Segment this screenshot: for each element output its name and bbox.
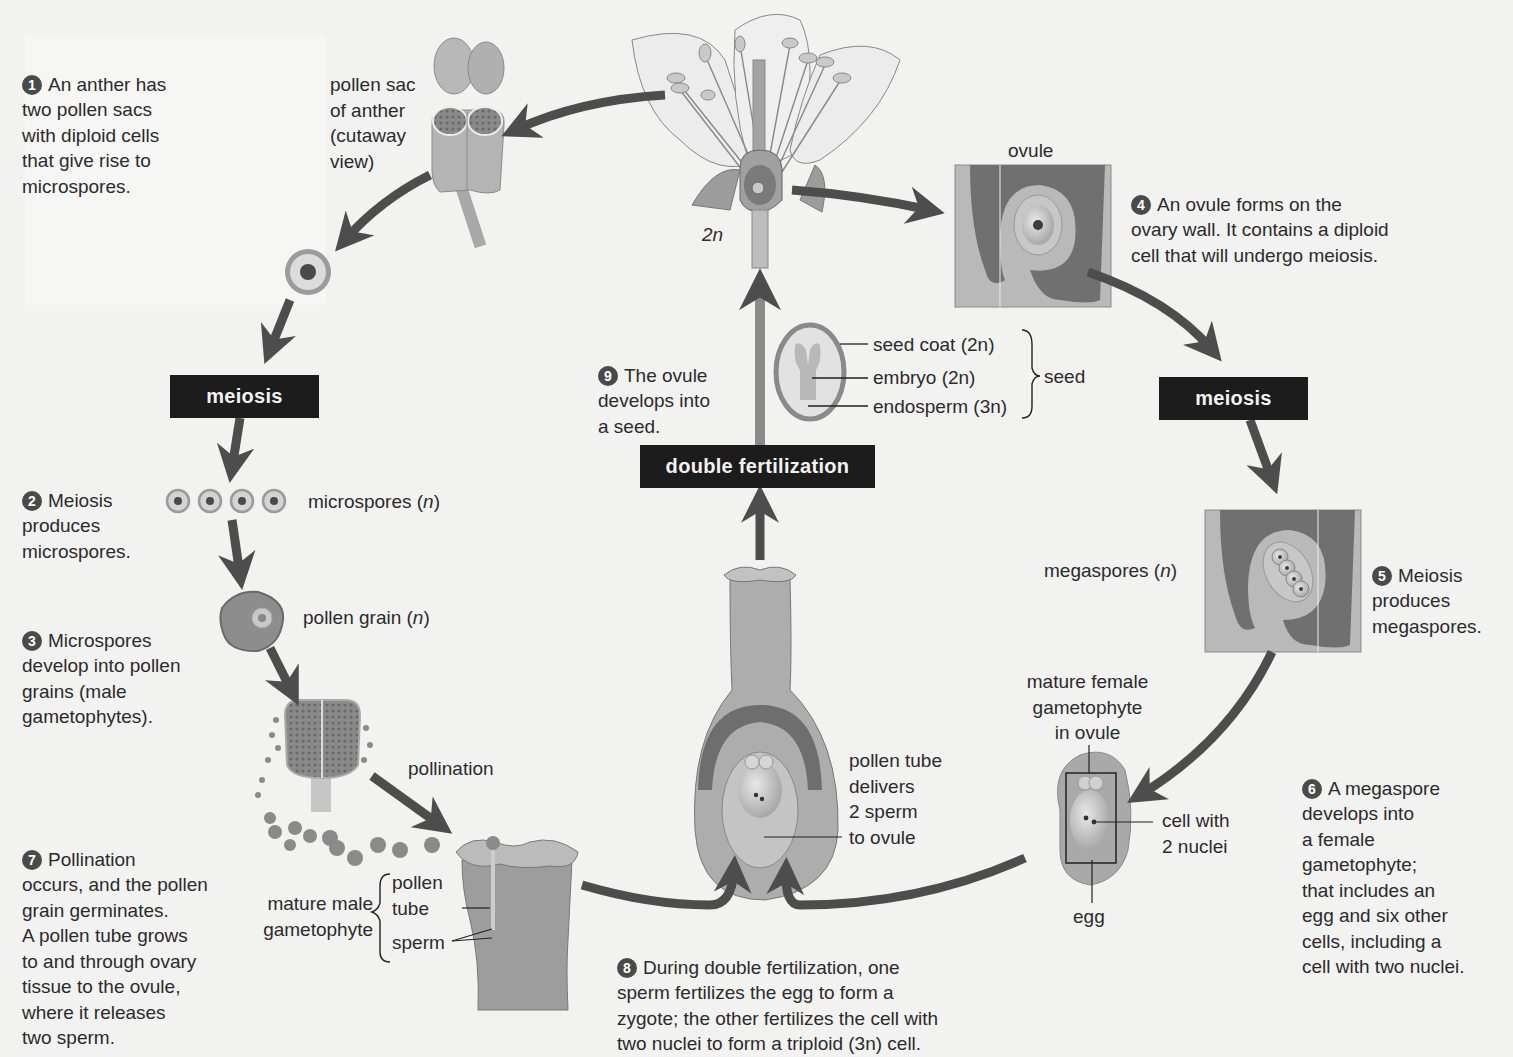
pollen-grain-label: pollen grain (n): [303, 605, 430, 631]
step-number-badge: 8: [617, 958, 637, 978]
mature-male-gametophyte-label: mature male gametophyte: [243, 891, 373, 942]
ovule-diagram: [955, 165, 1111, 307]
step-text: Microspores develop into pollen grains (…: [22, 630, 180, 728]
mature-female-gametophyte-label: mature female gametophyte in ovule: [1010, 669, 1165, 746]
seed-label: seed: [1044, 364, 1085, 390]
step-1-caption: 1An anther has two pollen sacs with dipl…: [22, 46, 232, 199]
microspores-icon: [167, 490, 285, 512]
pollen-grain-icon: [220, 592, 283, 651]
diploid-cell-icon: [285, 249, 331, 295]
arrow-meiosis-to-microspores: [232, 418, 240, 468]
mature-anther-icon: [255, 700, 440, 866]
step-number-badge: 9: [598, 366, 618, 386]
arrow-cell-to-meiosis: [270, 300, 290, 350]
step-7-caption: 7Pollination occurs, and the pollen grai…: [22, 821, 237, 1051]
step-2-caption: 2Meiosis produces microspores.: [22, 462, 162, 564]
step-text: During double fertilization, one sperm f…: [617, 957, 938, 1055]
flower-ploidy-label: 2n: [702, 222, 723, 248]
step-number-badge: 7: [22, 850, 42, 870]
pistil-icon: [694, 567, 842, 900]
megaspores-label: megaspores (n): [1044, 558, 1177, 584]
arrow-flower-to-anther: [515, 95, 665, 130]
arrow-pollen-grain-to-anther: [270, 648, 292, 692]
cell-with-2-nuclei-label: cell with 2 nuclei: [1162, 808, 1262, 859]
anther-whole-icon: [434, 38, 504, 94]
step-3-caption: 3Microspores develop into pollen grains …: [22, 602, 222, 730]
sperm-label: sperm: [392, 930, 445, 956]
step-number-badge: 1: [22, 75, 42, 95]
step-9-caption: 9The ovule develops into a seed.: [598, 337, 738, 439]
flower-icon: [632, 14, 900, 268]
embryo-label: embryo (2n): [873, 365, 975, 391]
step-text: An anther has two pollen sacs with diplo…: [22, 74, 166, 197]
step-number-badge: 5: [1372, 566, 1392, 586]
step-number-badge: 6: [1302, 779, 1322, 799]
step-5-caption: 5Meiosis produces megaspores.: [1372, 537, 1507, 639]
step-text: A megaspore develops into a female gamet…: [1302, 778, 1465, 978]
endosperm-label: endosperm (3n): [873, 394, 1007, 420]
megaspores-diagram: [1205, 510, 1361, 652]
step-number-badge: 2: [22, 491, 42, 511]
pollen-sac-label: pollen sac of anther (cutaway view): [330, 72, 440, 174]
microspores-label: microspores (n): [308, 489, 440, 515]
step-8-caption: 8During double fertilization, one sperm …: [617, 929, 997, 1057]
step-number-badge: 4: [1131, 195, 1151, 215]
ovule-label: ovule: [1008, 138, 1053, 164]
pollination-label: pollination: [408, 756, 494, 782]
step-text: An ovule forms on the ovary wall. It con…: [1131, 194, 1389, 266]
step-4-caption: 4An ovule forms on the ovary wall. It co…: [1131, 166, 1451, 268]
pollen-tube-delivers-label: pollen tube delivers 2 sperm to ovule: [849, 748, 979, 850]
meiosis-box-left: meiosis: [170, 375, 319, 418]
arrow-anther-to-cell: [345, 175, 430, 240]
egg-label: egg: [1073, 904, 1105, 930]
seed-coat-label: seed coat (2n): [873, 332, 994, 358]
pollen-tube-label: pollen tube: [392, 870, 462, 921]
female-gametophyte-icon: [1058, 745, 1154, 903]
stigma-style-icon: [372, 836, 578, 1010]
step-number-badge: 3: [22, 631, 42, 651]
anther-cutaway-icon: [432, 107, 504, 248]
step-6-caption: 6A megaspore develops into a female game…: [1302, 750, 1507, 980]
arrow-microspores-to-pollen-grain: [232, 520, 240, 575]
step-text: Pollination occurs, and the pollen grain…: [22, 849, 208, 1049]
double-fertilization-box: double fertilization: [640, 445, 875, 488]
arrow-pollination: [372, 776, 440, 825]
meiosis-box-right: meiosis: [1159, 377, 1308, 420]
arrow-meiosis-to-megaspores: [1250, 420, 1272, 480]
